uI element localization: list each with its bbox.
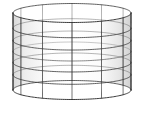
hyperboloid-canvas <box>0 0 144 129</box>
hyperboloid-figure: Hyperboloid of one sheet Wireframe drawi… <box>0 0 144 129</box>
